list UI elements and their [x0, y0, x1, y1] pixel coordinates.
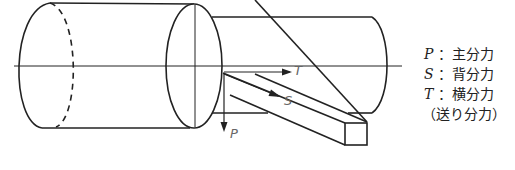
- legend: P：主分力 S：背分力 T：横分力 （送り分力）: [424, 44, 506, 124]
- legend-item-T: T：横分力: [424, 84, 506, 104]
- legend-item-S: S：背分力: [424, 64, 506, 84]
- label-S: S: [284, 93, 292, 108]
- label-T: T: [294, 63, 302, 78]
- label-P: P: [230, 126, 238, 141]
- legend-item-P: P：主分力: [424, 44, 506, 64]
- legend-item-T-note: （送り分力）: [422, 104, 506, 124]
